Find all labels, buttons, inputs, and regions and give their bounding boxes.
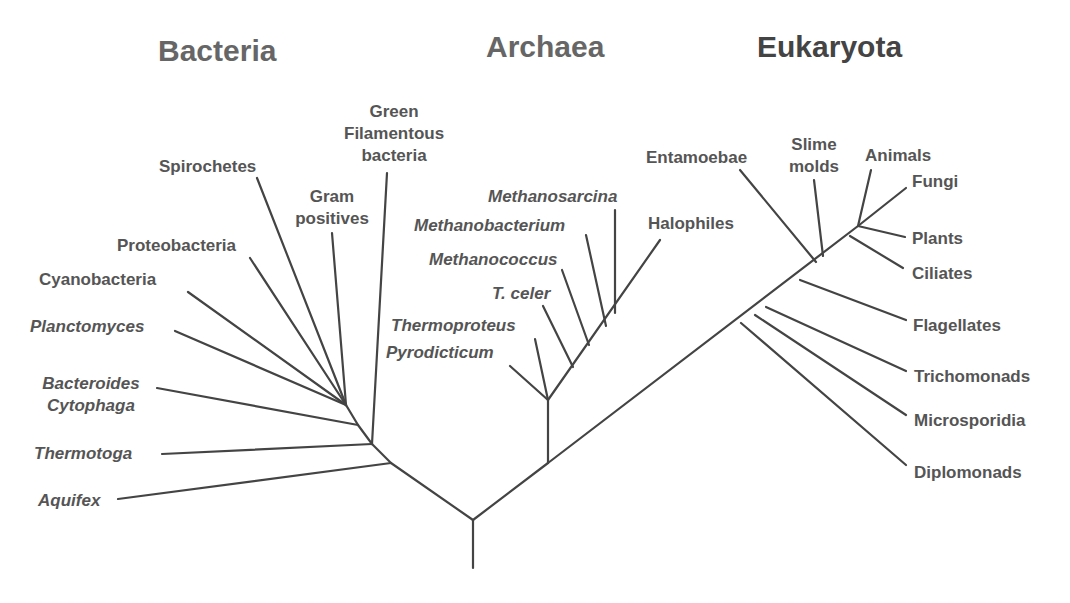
taxon-label: positives — [285, 208, 379, 230]
taxon-trichomonads: Trichomonads — [914, 366, 1030, 388]
taxon-gram-positives: Gram positives — [285, 186, 379, 230]
taxon-halophiles: Halophiles — [648, 213, 734, 235]
taxon-thermoproteus: Thermoproteus — [391, 315, 516, 337]
taxon-flagellates: Flagellates — [913, 315, 1001, 337]
taxon-pyrodicticum: Pyrodicticum — [386, 342, 494, 364]
taxon-plants: Plants — [912, 228, 963, 250]
taxon-label: Green — [344, 101, 444, 123]
domain-title-bacteria: Bacteria — [158, 34, 276, 68]
taxon-green-filamentous-bacteria: Green Filamentous bacteria — [344, 101, 444, 167]
taxon-entamoebae: Entamoebae — [646, 147, 747, 169]
taxon-slime-molds: Slime molds — [781, 134, 847, 178]
taxon-label: Filamentous — [344, 123, 444, 145]
taxon-label: Cytophaga — [30, 395, 152, 417]
taxon-methanosarcina: Methanosarcina — [488, 186, 617, 208]
taxon-diplomonads: Diplomonads — [914, 462, 1022, 484]
taxon-proteobacteria: Proteobacteria — [117, 235, 236, 257]
taxon-label: Gram — [285, 186, 379, 208]
taxon-label: Slime — [781, 134, 847, 156]
taxon-aquifex: Aquifex — [38, 490, 100, 512]
taxon-bacteroides-cytophaga: Bacteroides Cytophaga — [30, 373, 152, 417]
domain-title-archaea: Archaea — [486, 30, 604, 64]
taxon-t-celer: T. celer — [492, 283, 550, 305]
taxon-planctomyces: Planctomyces — [30, 316, 144, 338]
taxon-cyanobacteria: Cyanobacteria — [39, 269, 156, 291]
taxon-spirochetes: Spirochetes — [159, 156, 256, 178]
taxon-animals: Animals — [865, 145, 931, 167]
taxon-label: molds — [781, 156, 847, 178]
taxon-label: bacteria — [344, 145, 444, 167]
taxon-label: Bacteroides — [30, 373, 152, 395]
taxon-methanococcus: Methanococcus — [429, 249, 557, 271]
taxon-methanobacterium: Methanobacterium — [414, 215, 565, 237]
taxon-ciliates: Ciliates — [912, 263, 972, 285]
taxon-thermotoga: Thermotoga — [34, 443, 132, 465]
domain-title-eukaryota: Eukaryota — [757, 30, 902, 64]
taxon-fungi: Fungi — [912, 171, 958, 193]
phylogenetic-tree: Bacteria Archaea Eukaryota Green Filamen… — [0, 0, 1070, 603]
taxon-microsporidia: Microsporidia — [914, 410, 1025, 432]
